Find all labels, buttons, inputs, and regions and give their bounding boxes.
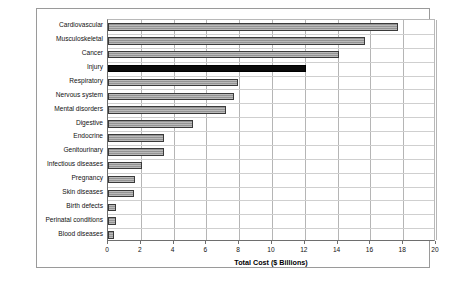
bar-row xyxy=(108,23,436,30)
category-label: Birth defects xyxy=(37,203,103,210)
category-label: Endocrine xyxy=(37,133,103,140)
bar-row xyxy=(108,106,436,113)
bar-row xyxy=(108,162,436,169)
category-label: Perinatal conditions xyxy=(37,217,103,224)
bar-row xyxy=(108,79,436,86)
row-separator xyxy=(108,117,434,118)
bar-respiratory xyxy=(108,79,238,86)
bar-pregnancy xyxy=(108,176,135,183)
bar-genitourinary xyxy=(108,148,164,155)
x-tick-mark xyxy=(238,241,239,244)
bar-cancer xyxy=(108,51,339,58)
bar-mental-disorders xyxy=(108,106,226,113)
x-gridline xyxy=(436,20,437,240)
x-axis-title: Total Cost ($ Billions) xyxy=(211,259,331,266)
x-tick-label: 4 xyxy=(158,247,188,254)
row-separator xyxy=(108,187,434,188)
x-tick-mark xyxy=(337,241,338,244)
bar-blood-diseases xyxy=(108,231,114,238)
category-label: Pregnancy xyxy=(37,175,103,182)
x-tick-label: 8 xyxy=(223,247,253,254)
x-tick-label: 18 xyxy=(387,247,417,254)
bar-injury xyxy=(108,65,306,72)
category-label: Injury xyxy=(37,64,103,71)
x-tick-mark xyxy=(107,241,108,244)
category-label: Genitourinary xyxy=(37,147,103,154)
bar-perinatal-conditions xyxy=(108,217,116,224)
bar-musculoskeletal xyxy=(108,37,365,44)
row-separator xyxy=(108,131,434,132)
x-tick-mark xyxy=(304,241,305,244)
x-tick-mark xyxy=(205,241,206,244)
category-label: Digestive xyxy=(37,120,103,127)
category-label: Respiratory xyxy=(37,78,103,85)
bar-row xyxy=(108,190,436,197)
bar-cardiovascular xyxy=(108,23,398,30)
bar-row xyxy=(108,65,436,72)
bar-infectious-diseases xyxy=(108,162,142,169)
category-label: Cardiovascular xyxy=(37,22,103,29)
bar-row xyxy=(108,176,436,183)
bar-row xyxy=(108,231,436,238)
category-label: Musculoskeletal xyxy=(37,36,103,43)
category-label: Cancer xyxy=(37,50,103,57)
category-label: Skin diseases xyxy=(37,189,103,196)
x-tick-label: 6 xyxy=(190,247,220,254)
x-tick-mark xyxy=(435,241,436,244)
x-tick-label: 20 xyxy=(420,247,450,254)
category-label: Mental disorders xyxy=(37,106,103,113)
chart-frame: CardiovascularMusculoskeletalCancerInjur… xyxy=(36,8,430,268)
x-tick-label: 12 xyxy=(289,247,319,254)
x-tick-mark xyxy=(402,241,403,244)
row-separator xyxy=(108,103,434,104)
x-tick-label: 2 xyxy=(125,247,155,254)
category-label: Blood diseases xyxy=(37,231,103,238)
bar-row xyxy=(108,37,436,44)
row-separator xyxy=(108,200,434,201)
bar-row xyxy=(108,120,436,127)
x-tick-label: 16 xyxy=(354,247,384,254)
bar-row xyxy=(108,134,436,141)
bar-row xyxy=(108,204,436,211)
row-separator xyxy=(108,228,434,229)
row-separator xyxy=(108,89,434,90)
bar-row xyxy=(108,93,436,100)
x-tick-mark xyxy=(140,241,141,244)
chart-root: CardiovascularMusculoskeletalCancerInjur… xyxy=(0,0,451,297)
row-separator xyxy=(108,62,434,63)
bar-birth-defects xyxy=(108,204,116,211)
x-tick-mark xyxy=(173,241,174,244)
bar-endocrine xyxy=(108,134,164,141)
row-separator xyxy=(108,48,434,49)
bar-row xyxy=(108,148,436,155)
x-tick-label: 0 xyxy=(92,247,122,254)
x-tick-label: 10 xyxy=(256,247,286,254)
row-separator xyxy=(108,145,434,146)
x-tick-mark xyxy=(271,241,272,244)
row-separator xyxy=(108,214,434,215)
bar-row xyxy=(108,217,436,224)
row-separator xyxy=(108,173,434,174)
category-label: Infectious diseases xyxy=(37,161,103,168)
row-separator xyxy=(108,159,434,160)
x-tick-label: 14 xyxy=(322,247,352,254)
bar-digestive xyxy=(108,120,193,127)
row-separator xyxy=(108,34,434,35)
x-tick-mark xyxy=(369,241,370,244)
bar-nervous-system xyxy=(108,93,234,100)
bar-row xyxy=(108,51,436,58)
bar-skin-diseases xyxy=(108,190,134,197)
plot-area xyxy=(107,19,435,241)
row-separator xyxy=(108,76,434,77)
category-label: Nervous system xyxy=(37,92,103,99)
